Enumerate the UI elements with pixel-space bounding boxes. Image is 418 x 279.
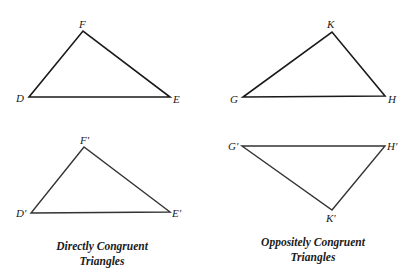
label-h: H	[387, 93, 397, 105]
caption-left-line1: Directly Congruent	[55, 240, 148, 253]
caption-directly-congruent: Directly Congruent Triangles	[55, 240, 148, 268]
caption-oppositely-congruent: Oppositely Congruent Triangles	[261, 236, 366, 264]
label-k: K	[326, 18, 335, 30]
triangle-ghk: K G H	[230, 18, 397, 105]
label-g-prime: G′	[228, 140, 239, 152]
caption-left-line2: Triangles	[80, 255, 125, 268]
label-h-prime: H′	[386, 140, 398, 152]
label-d-prime: D′	[15, 207, 27, 219]
triangle-ghk-shape	[243, 32, 385, 97]
triangle-def: F D E	[15, 18, 180, 105]
label-f: F	[78, 18, 86, 30]
caption-right-line2: Triangles	[291, 251, 336, 264]
label-d: D	[15, 92, 24, 104]
triangle-def-prime: F′ D′ E′	[15, 134, 182, 219]
triangle-ghk-prime: G′ H′ K′	[228, 140, 398, 224]
label-f-prime: F′	[79, 134, 90, 146]
label-e-prime: E′	[171, 207, 182, 219]
triangle-def-prime-shape	[31, 147, 170, 213]
label-k-prime: K′	[325, 212, 336, 224]
label-e: E	[172, 93, 180, 105]
label-g: G	[230, 93, 238, 105]
caption-right-line1: Oppositely Congruent	[261, 236, 366, 249]
congruent-triangles-diagram: F D E K G H F′ D′ E′ G′ H′ K′ Directly C…	[0, 0, 418, 279]
triangle-ghk-prime-shape	[242, 146, 385, 210]
triangle-def-shape	[29, 31, 170, 97]
